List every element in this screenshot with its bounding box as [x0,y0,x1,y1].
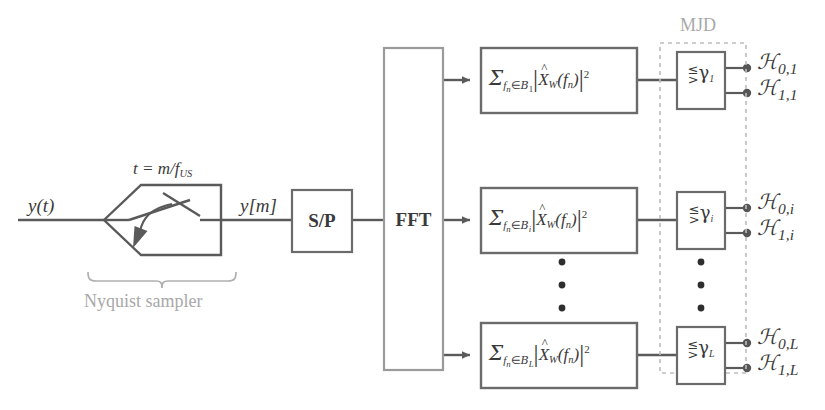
gamma-sub-i: i [710,213,713,224]
spectrum-sub-L: W [549,354,558,365]
cmp-bottom-L: > [687,347,698,362]
band-set-1: B [521,79,529,92]
sp-block-label: S/P [292,211,352,230]
threshold-expression-1: ≤>γ1 [677,64,725,86]
arg-close-1: ) [573,70,579,89]
ellipsis-energy-column [559,259,566,312]
input-signal-label: y(t) [28,196,54,215]
band-set-i: B [521,219,529,232]
decision-output-dots [743,64,751,372]
nyquist-sampler-brace [88,272,236,288]
fft-block-label: FFT [384,210,443,229]
hypothesis-symbol-0-1: ℋ [757,50,778,74]
band-set-L: B [521,354,529,367]
block-diagram-canvas: y(t) y[m] t = m/fUS Nyquist sampler S/P … [0,0,825,410]
hat-accent-1: ^ [541,61,547,74]
band-sub-L: L [529,358,534,368]
hypothesis-sub-1-1: 1,1 [778,86,797,103]
ellipsis-threshold-column [698,259,705,312]
hypothesis-sub-1-i: 1,i [778,226,794,243]
arg-close-i: ) [571,210,577,229]
nyquist-sampler-shape [104,185,221,255]
energy-expression-1: Σfn∈B1|^XW(fn)|2 [489,64,589,89]
member-symbol-i: ∈ [511,219,521,231]
gamma-symbol-L: γ [698,337,709,358]
gamma-sub-L: L [709,348,715,359]
sigma-symbol-1: Σ [489,66,503,90]
hypothesis-symbol-1-L: ℋ [757,351,778,375]
energy-expression-L: Σfn∈BL|^XW(fn)|2 [489,339,590,364]
member-symbol-1: ∈ [511,79,521,91]
hat-accent-L: ^ [542,336,548,349]
abs-close-1: | [579,65,584,92]
gamma-sub-1: 1 [709,73,714,84]
hypothesis-sub-0-i: 0,i [778,200,794,217]
gamma-symbol-1: γ [699,62,710,83]
hypothesis-output-1-i: ℋ1,i [757,218,794,239]
abs-close-L: | [579,340,584,367]
comparison-stack-i: ≤> [689,205,700,226]
threshold-expression-L: ≤>γL [677,339,725,361]
hypothesis-symbol-0-L: ℋ [757,325,778,349]
energy-to-threshold-wires [637,80,677,355]
hat-accent-i: ^ [539,201,545,214]
mjd-group-label: MJD [680,16,716,34]
energy-expression-i: Σfn∈Bi|^XW(fn)|2 [489,204,587,229]
nyquist-sampler-bracket-label: Nyquist sampler [84,292,203,310]
sampled-signal-label: y[m] [240,196,277,215]
hypothesis-output-1-L: ℋ1,L [757,353,798,374]
hypothesis-symbol-0-i: ℋ [757,190,778,214]
comparison-stack-L: ≤> [687,340,698,361]
sampling-relation-main: t = m/f [133,159,179,178]
fft-output-wires [443,80,470,355]
hypothesis-symbol-1-1: ℋ [757,76,778,100]
hypothesis-output-0-1: ℋ0,1 [757,52,797,73]
sampling-relation-label: t = m/fUS [133,160,192,177]
threshold-expression-i: ≤>γi [677,204,725,226]
spectrum-sub-1: W [549,79,558,90]
exponent-i: 2 [582,208,588,220]
sampling-relation-subscript: US [179,168,192,179]
exponent-L: 2 [584,343,590,355]
hypothesis-output-0-L: ℋ0,L [757,327,798,348]
cmp-bottom-i: > [689,212,700,227]
hypothesis-sub-0-1: 0,1 [778,60,797,77]
comparison-stack-1: ≤> [688,65,699,86]
gamma-symbol-i: γ [700,202,711,223]
hypothesis-symbol-1-i: ℋ [757,216,778,240]
sigma-symbol-i: Σ [489,206,503,230]
hypothesis-output-0-i: ℋ0,i [757,192,794,213]
abs-close-i: | [577,205,582,232]
cmp-bottom-1: > [688,72,699,87]
decision-output-wires [725,68,745,368]
exponent-1: 2 [584,68,590,80]
hypothesis-output-1-1: ℋ1,1 [757,78,797,99]
sigma-symbol-L: Σ [489,341,503,365]
hypothesis-sub-1-L: 1,L [778,361,798,378]
hypothesis-sub-0-L: 0,L [778,335,798,352]
member-symbol-L: ∈ [511,354,521,366]
